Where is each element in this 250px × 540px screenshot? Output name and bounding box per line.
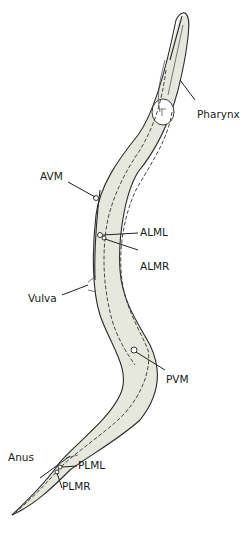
pharynx-bulb xyxy=(152,99,174,125)
avm-leader xyxy=(68,182,95,197)
pvm-label: PVM xyxy=(166,373,189,385)
alml-neuron xyxy=(98,233,103,238)
pharynx-leader xyxy=(180,80,195,100)
worm-illustration: Pharynx AVM ALML ALMR Vulva PVM Anus PLM… xyxy=(0,0,250,540)
avm-label: AVM xyxy=(40,170,63,182)
plml-neuron xyxy=(58,465,62,469)
plmr-label: PLMR xyxy=(62,480,91,492)
anus-label: Anus xyxy=(8,451,34,463)
worm-diagram: Pharynx AVM ALML ALMR Vulva PVM Anus PLM… xyxy=(0,0,250,540)
almr-label: ALMR xyxy=(140,260,169,272)
vulva-label: Vulva xyxy=(28,292,57,304)
pharynx-label: Pharynx xyxy=(197,108,240,120)
plml-label: PLML xyxy=(78,459,105,471)
alml-label: ALML xyxy=(140,226,168,238)
vulva-leader xyxy=(62,285,88,295)
